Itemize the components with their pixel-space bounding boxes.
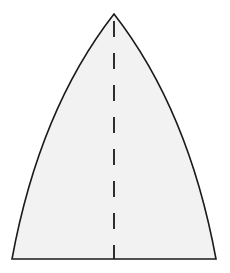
gore-diagram [0, 0, 230, 273]
diagram-canvas [0, 0, 230, 273]
